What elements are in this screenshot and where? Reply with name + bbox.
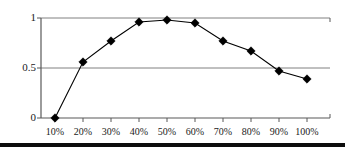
y-tick-label: 0 — [31, 112, 37, 123]
data-point-marker — [107, 37, 115, 45]
data-point-marker — [247, 47, 255, 55]
data-point-marker — [219, 37, 227, 45]
x-tick-label: 100% — [295, 126, 318, 138]
data-point-marker — [51, 114, 59, 122]
x-tick-label: 90% — [270, 126, 288, 138]
data-point-marker — [303, 75, 311, 83]
x-tick-label: 80% — [242, 126, 260, 138]
x-tick-label: 60% — [186, 126, 204, 138]
x-tick-label: 30% — [102, 126, 120, 138]
data-point-marker-group — [51, 16, 311, 122]
data-series-line — [55, 20, 307, 118]
x-tick-label: 50% — [158, 126, 176, 138]
y-tick-label: 0.5 — [22, 62, 36, 73]
data-point-marker — [163, 16, 171, 24]
x-tick-label: 70% — [214, 126, 232, 138]
data-point-marker — [79, 58, 87, 66]
x-tick-group — [37, 18, 307, 122]
bottom-rule — [0, 143, 345, 147]
x-tick-label: 20% — [74, 126, 92, 138]
data-point-marker — [135, 18, 143, 26]
x-tick-label: 40% — [130, 126, 148, 138]
chart-figure: 10.50 10%20%30%40%50%60%70%80%90%100% — [0, 0, 345, 150]
x-tick-label: 10% — [46, 126, 64, 138]
data-point-marker — [191, 19, 199, 27]
x-axis-labels: 10%20%30%40%50%60%70%80%90%100% — [0, 126, 345, 142]
y-tick-label: 1 — [31, 12, 37, 23]
